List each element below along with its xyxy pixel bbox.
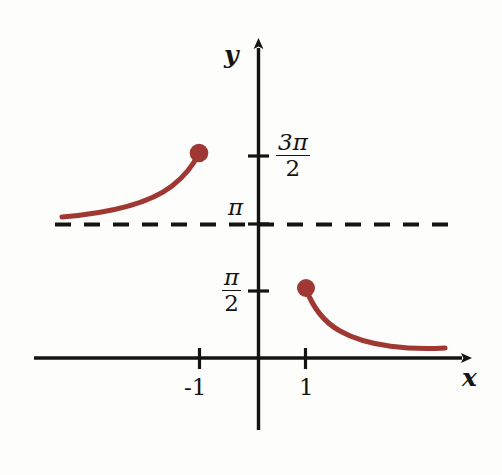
curve-lower-branch xyxy=(306,289,445,349)
endpoint-dot-lower xyxy=(297,279,315,297)
curve-upper-branch xyxy=(62,153,199,217)
x-tick-label--1: -1 xyxy=(184,376,206,399)
fraction-three-pi-over-two: 3π 2 xyxy=(276,131,310,181)
endpoint-dot-upper xyxy=(190,144,209,163)
fraction-denominator: 2 xyxy=(276,156,310,180)
fraction-numerator: 3π xyxy=(276,131,310,156)
plot-canvas xyxy=(0,0,502,475)
x-axis-label: x xyxy=(462,365,477,390)
y-tick-label-pi: π xyxy=(228,196,243,219)
y-tick-label-three-pi-over-two: 3π 2 xyxy=(276,131,310,181)
x-tick-label-1: 1 xyxy=(299,376,314,399)
fraction-numerator: π xyxy=(222,266,241,291)
graph-figure: y x -1 1 3π 2 π π 2 xyxy=(0,0,502,475)
y-axis-label: y xyxy=(224,42,239,67)
y-tick-label-pi-over-two: π 2 xyxy=(222,266,241,316)
fraction-denominator: 2 xyxy=(222,291,241,315)
fraction-pi-over-two: π 2 xyxy=(222,266,241,316)
